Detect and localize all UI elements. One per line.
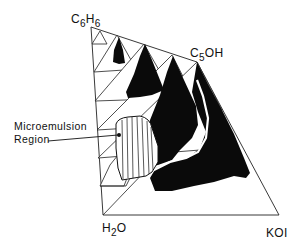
vertex-label-benzene: C6H6 xyxy=(71,13,101,29)
microemulsion-region xyxy=(116,116,158,180)
annotation-label: Microemulsion Region xyxy=(14,121,87,144)
label-part: C xyxy=(71,12,80,26)
annotation-line1: Microemulsion xyxy=(14,121,87,132)
label-part: OH xyxy=(205,46,224,60)
vertex-label-koi: KOI xyxy=(266,227,288,239)
label-subscript: 6 xyxy=(95,18,101,29)
label-part: C xyxy=(190,46,199,60)
label-part: O xyxy=(117,221,127,235)
vertex-label-water: H2O xyxy=(102,222,126,238)
phase-diagram: C6H6 C5OH H2O KOI Microemulsion Region xyxy=(0,0,302,251)
annotation-line2: Region xyxy=(14,134,87,145)
vertex-label-pentanol: C5OH xyxy=(190,47,223,63)
label-part: H xyxy=(102,221,111,235)
label-part: KOI xyxy=(266,226,288,240)
label-part: H xyxy=(86,12,95,26)
